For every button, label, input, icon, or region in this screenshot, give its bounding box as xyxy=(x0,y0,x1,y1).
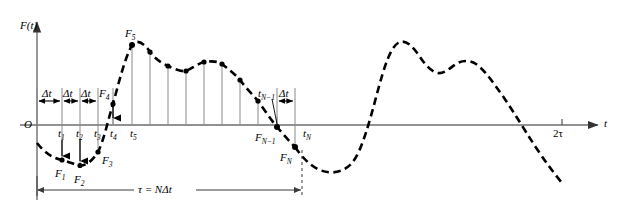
force-label-FN-1: FN−1 xyxy=(255,132,276,146)
x-axis-end-tick-label: 2τ xyxy=(553,128,563,139)
FN1-main: F xyxy=(255,131,262,143)
time-label-t5: t5 xyxy=(130,128,137,142)
tN1-sub: N−1 xyxy=(261,93,275,102)
time-label-t4: t4 xyxy=(110,128,117,142)
F2-main: F xyxy=(74,173,81,185)
t4-sub: 4 xyxy=(113,133,117,142)
t1-sub: 1 xyxy=(61,133,65,142)
delta-t-label-3: Δt xyxy=(81,88,91,99)
F4-sub: 4 xyxy=(106,93,110,102)
F5-main: F xyxy=(125,27,132,39)
F3-sub: 3 xyxy=(109,160,113,169)
force-curve-period-2 xyxy=(295,42,562,183)
force-label-F3: F3 xyxy=(102,155,112,169)
time-label-t1: t1 xyxy=(58,128,65,142)
F2-sub: 2 xyxy=(81,179,85,188)
force-label-F4: F4 xyxy=(99,88,109,102)
force-time-figure: F(t) O t 2τ Δt Δt Δt Δt t1 t2 t3 t4 t5 t… xyxy=(0,0,620,217)
figure-canvas xyxy=(0,0,620,217)
force-label-F2: F2 xyxy=(74,174,84,188)
force-curve-period-1 xyxy=(37,42,295,166)
force-label-FN: FN xyxy=(280,152,292,166)
delta-t-label-2: Δt xyxy=(63,88,73,99)
FN-main: F xyxy=(280,151,287,163)
y-axis-label: F(t) xyxy=(20,20,37,31)
force-leader-arrows xyxy=(62,100,113,161)
FN-sub: N xyxy=(287,157,292,166)
ordinate-lines xyxy=(62,45,295,166)
F3-main: F xyxy=(102,154,109,166)
x-axis-label: t xyxy=(604,118,607,129)
FN1-sub: N−1 xyxy=(262,137,276,146)
interval-guides xyxy=(37,88,295,125)
t3-sub: 3 xyxy=(97,133,101,142)
delta-t-label-1: Δt xyxy=(42,88,52,99)
period-bracket-label: τ = NΔt xyxy=(138,184,172,195)
t5-sub: 5 xyxy=(133,133,137,142)
F1-main: F xyxy=(55,167,62,179)
time-label-tN-1: tN−1 xyxy=(258,88,275,102)
t2-sub: 2 xyxy=(79,133,83,142)
F5-sub: 5 xyxy=(132,33,136,42)
time-label-tN: tN xyxy=(303,128,311,142)
origin-label: O xyxy=(24,119,32,130)
F1-sub: 1 xyxy=(62,173,66,182)
force-label-F1: F1 xyxy=(55,168,65,182)
sample-point-markers xyxy=(59,42,298,168)
force-label-F5: F5 xyxy=(125,28,135,42)
time-label-t3: t3 xyxy=(94,128,101,142)
time-label-t2: t2 xyxy=(76,128,83,142)
delta-t-label-4: Δt xyxy=(279,88,289,99)
tN-sub: N xyxy=(306,133,311,142)
F4-main: F xyxy=(99,87,106,99)
